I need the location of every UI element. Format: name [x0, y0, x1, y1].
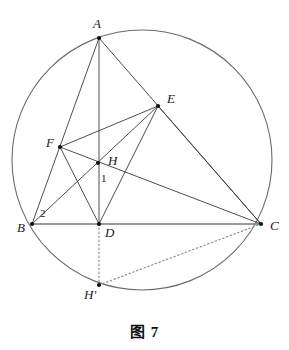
segment-AB — [32, 38, 99, 224]
point-label-D: D — [104, 225, 115, 240]
point-label-A: A — [92, 16, 101, 31]
segment-BE — [32, 106, 158, 224]
vertex-dot-Hp — [97, 283, 101, 287]
segment-FC — [60, 147, 261, 224]
segment-EC — [158, 106, 261, 224]
vertex-dot-D — [97, 222, 101, 226]
vertex-dots-layer — [30, 36, 263, 287]
point-labels-layer: AEFHBDCH' — [17, 16, 279, 302]
point-label-E: E — [166, 91, 175, 106]
segments-layer — [32, 38, 261, 285]
point-label-C: C — [270, 218, 279, 233]
circumcircle — [12, 30, 272, 290]
angle-1-label: 1 — [101, 172, 107, 184]
point-label-H: H — [107, 153, 118, 168]
angle-labels-layer: 12 — [40, 172, 107, 219]
vertex-dot-H — [96, 161, 100, 165]
segment-FE — [60, 106, 158, 147]
geometry-canvas: AEFHBDCH' 12 — [0, 0, 289, 350]
geometry-figure: AEFHBDCH' 12 图 7 — [0, 0, 289, 350]
point-label-Hp: H' — [83, 287, 96, 302]
figure-caption: 图 7 — [0, 320, 289, 341]
segment-FD — [60, 147, 99, 224]
circle-layer — [12, 30, 272, 290]
vertex-dot-E — [156, 104, 160, 108]
vertex-dot-B — [30, 222, 34, 226]
point-label-F: F — [45, 135, 55, 150]
point-label-B: B — [17, 220, 25, 235]
angle-2-label: 2 — [40, 207, 46, 219]
segment-HpC — [99, 224, 261, 285]
vertex-dot-F — [58, 145, 62, 149]
vertex-dot-A — [97, 36, 101, 40]
vertex-dot-C — [259, 222, 263, 226]
